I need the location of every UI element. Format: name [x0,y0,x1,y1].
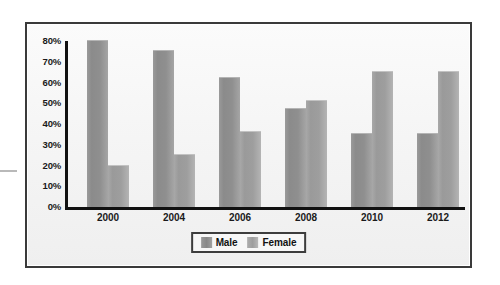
bar-group [417,41,459,207]
bar-group [285,41,327,207]
bar-male [87,40,108,207]
x-tick-label: 2004 [144,212,204,223]
y-tick-label: 50% [43,98,61,108]
x-tick-label: 2008 [276,212,336,223]
y-tick-label: 60% [43,78,61,88]
y-axis: 0%10%20%30%40%50%60%70%80% [27,24,63,214]
y-tick-label: 30% [43,140,61,150]
bar-female [306,100,327,207]
bar-group [87,41,129,207]
x-tick-label: 2000 [78,212,138,223]
x-tick-label: 2006 [210,212,270,223]
bar-female [438,71,459,207]
x-tick-label: 2010 [342,212,402,223]
bar-female [174,154,195,207]
y-tick-label: 10% [43,181,61,191]
x-axis-line [65,207,465,210]
bar-male [285,108,306,207]
legend-item-male[interactable]: Male [201,237,238,248]
y-tick-label: 80% [43,36,61,46]
y-tick-label: 20% [43,161,61,171]
legend-label: Female [262,237,296,248]
legend-swatch-icon [247,237,258,248]
plot-area: 0%10%20%30%40%50%60%70%80% 2000200420062… [27,24,470,266]
bars-layer [68,41,465,207]
bar-group [153,41,195,207]
legend-item-female[interactable]: Female [247,237,296,248]
y-tick-label: 0% [48,202,61,212]
bar-male [153,50,174,207]
legend-label: Male [216,237,238,248]
bar-male [219,77,240,207]
x-tick-label: 2012 [408,212,468,223]
y-tick-label: 70% [43,57,61,67]
left-edge-dash [0,170,17,172]
chart-legend: MaleFemale [191,232,307,253]
chart-frame: 0%10%20%30%40%50%60%70%80% 2000200420062… [25,22,472,268]
legend-swatch-icon [201,237,212,248]
bar-group [351,41,393,207]
y-tick-label: 40% [43,119,61,129]
bar-male [351,133,372,207]
bar-female [108,165,129,208]
bar-group [219,41,261,207]
bar-male [417,133,438,207]
bar-female [372,71,393,207]
x-axis: 200020042006200820102012 [68,212,465,228]
bar-female [240,131,261,207]
